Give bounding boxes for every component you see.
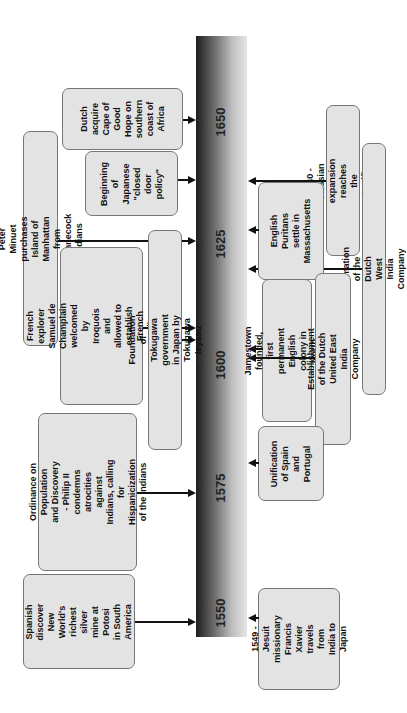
arrow-left-icon [248, 265, 256, 273]
arrow-right-icon [188, 336, 196, 344]
tick-1650 [197, 120, 203, 121]
arrow-right-icon [188, 237, 196, 245]
event-text: Unification of Spain and Portugal [269, 440, 313, 487]
event-box-russian-expansion: 1640 - Russian expansion reaches the Pac… [326, 105, 360, 256]
arrow-left-icon [248, 614, 256, 622]
arrow-left-icon [248, 177, 256, 185]
arrow-left-icon [248, 459, 256, 467]
event-box-spain-portugal: Unification of Spain and Portugal [258, 426, 324, 501]
event-text: 1549 - Jesuit missionary Francis Xavier … [250, 615, 349, 663]
connector-line [256, 462, 259, 464]
event-text: Spanish discover New World's richest sil… [24, 594, 134, 649]
connector-line [256, 357, 315, 359]
event-text: English Puritans settle in Massachusetts [269, 199, 313, 264]
arrow-left-icon [248, 354, 256, 362]
arrow-right-icon [188, 116, 196, 124]
event-box-xavier: 1549 - Jesuit missionary Francis Xavier … [258, 588, 340, 690]
year-label-1625: 1625 [213, 224, 229, 264]
event-box-japanese-closed-door: Beginning of Japanese "closed door polic… [85, 151, 178, 216]
tick-1575 [197, 482, 203, 483]
arrow-right-icon [188, 618, 196, 626]
year-label-1650: 1650 [213, 102, 229, 142]
arrow-right-icon [188, 176, 196, 184]
tick-1550 [197, 605, 203, 606]
event-box-ordinance: Ordinance on Population and Discovery - … [38, 413, 137, 571]
connector-line [135, 621, 189, 623]
connector-line [137, 492, 189, 494]
connector-line [256, 617, 259, 619]
event-text: Dutch acquire Cape of Good Hope on south… [79, 100, 167, 139]
event-box-dutch-east-india: Establishment of the Dutch United East I… [315, 273, 351, 445]
event-box-jamestown: Jamestown founded, first permanent Engli… [262, 279, 312, 422]
year-label-1550: 1550 [213, 593, 229, 633]
year-label-1600: 1600 [213, 345, 229, 385]
event-box-english-puritans: English Puritans settle in Massachusetts [258, 182, 324, 280]
arrow-left-icon [248, 345, 256, 353]
connector-line [323, 268, 362, 270]
event-box-tokugawa: Foundation of Tokugawa government in Jap… [148, 230, 182, 450]
event-text: Beginning of Japanese "closed door polic… [99, 162, 165, 206]
event-box-potosi: Spanish discover New World's richest sil… [23, 574, 135, 669]
event-box-dutch-west-india: Formation of the Dutch West India Compan… [362, 143, 386, 395]
arrow-right-icon [188, 489, 196, 497]
event-text: Ordinance on Population and Discovery - … [27, 459, 148, 525]
connector-line [256, 348, 263, 350]
event-text: Establishment of the Dutch United East I… [306, 328, 361, 390]
tick-1625 [197, 240, 203, 241]
connector-line [256, 229, 259, 231]
arrow-left-icon [248, 226, 256, 234]
year-label-1575: 1575 [213, 468, 229, 508]
event-box-dutch-cape: Dutch acquire Cape of Good Hope on south… [62, 88, 183, 150]
